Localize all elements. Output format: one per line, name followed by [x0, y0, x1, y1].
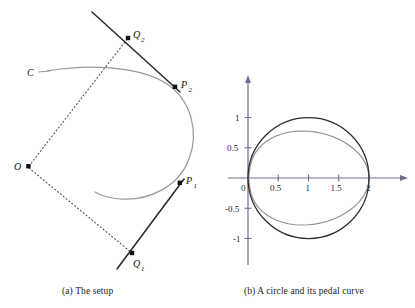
caption-panel-b: (b) A circle and its pedal curve — [244, 286, 364, 297]
label-q2-base: Q — [133, 29, 141, 40]
point-q1-marker — [130, 251, 134, 255]
label-p2: P 2 — [180, 79, 193, 94]
label-o: O — [14, 161, 21, 172]
curve-c-path — [47, 67, 193, 199]
y-axis-arrow — [245, 75, 251, 83]
figure-root: O C Q 2 P 2 P 1 Q 1 (a) The setup — [0, 0, 415, 308]
tangent-line-2 — [92, 12, 180, 92]
x-tick-label-0: 0 — [241, 183, 246, 193]
y-tick-label--1: -1 — [233, 234, 241, 244]
label-q1-subscript: 1 — [141, 265, 145, 273]
label-p2-subscript: 2 — [189, 86, 193, 94]
x-tick-label-1: 1 — [306, 183, 311, 193]
x-axis-arrow — [400, 175, 408, 181]
label-q1-base: Q — [133, 258, 141, 269]
panel-setup: O C Q 2 P 2 P 1 Q 1 (a) The setup — [14, 12, 197, 297]
dotted-o-q1 — [29, 168, 132, 253]
point-p2-marker — [173, 85, 177, 89]
label-q2: Q 2 — [133, 29, 145, 44]
tangent-line-1 — [117, 179, 184, 269]
label-q2-subscript: 2 — [141, 36, 145, 44]
panel-pedal: 0 0.5 1 1.5 2 1 0.5 -0.5 -1 (b) A circle… — [225, 75, 408, 297]
label-p1-base: P — [185, 175, 192, 186]
x-tick-label-0.5: 0.5 — [270, 183, 282, 193]
curve-c-leader — [38, 71, 50, 72]
dotted-o-q2 — [29, 38, 128, 166]
point-p1-marker — [178, 181, 182, 185]
y-tick-label--0.5: -0.5 — [225, 204, 240, 214]
label-q1: Q 1 — [133, 258, 145, 273]
label-p1-subscript: 1 — [194, 182, 198, 190]
label-c: C — [27, 67, 34, 78]
point-q2-marker — [126, 36, 130, 40]
x-tick-label-1.5: 1.5 — [331, 183, 343, 193]
y-tick-label-1: 1 — [235, 113, 240, 123]
label-p1: P 1 — [185, 175, 197, 190]
y-tick-label-0.5: 0.5 — [227, 143, 239, 153]
caption-panel-a: (a) The setup — [62, 286, 113, 297]
label-p2-base: P — [180, 79, 187, 90]
point-o-marker — [26, 164, 30, 168]
